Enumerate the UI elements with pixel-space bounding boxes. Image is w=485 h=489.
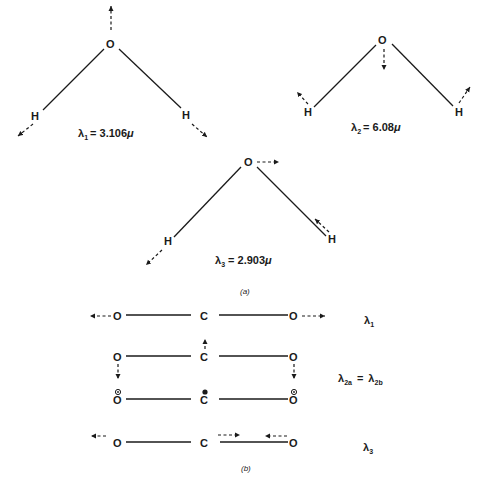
co2-row-mode-3: O C O λ3 bbox=[91, 435, 373, 455]
oxygen-atom-right: O bbox=[289, 310, 298, 322]
carbon-atom: C bbox=[200, 437, 208, 449]
displacement-arrow-up-right-icon bbox=[459, 87, 470, 103]
oxygen-atom-left: O bbox=[113, 351, 122, 363]
oxygen-atom-left: O bbox=[113, 310, 122, 322]
hydrogen-atom-left: H bbox=[31, 110, 39, 122]
oxygen-atom-left: O bbox=[113, 394, 122, 406]
wavelength-label-3: λ3= 2.903μ bbox=[215, 254, 272, 268]
co2-row-mode-1: O C O λ1 bbox=[90, 310, 374, 328]
carbon-atom: C bbox=[200, 310, 208, 322]
displacement-arrow-down-right-icon bbox=[192, 124, 207, 137]
wavelength-label-2: λ2= 6.08μ bbox=[351, 121, 401, 135]
carbon-atom: C bbox=[200, 394, 208, 406]
displacement-arrow-up-left-icon bbox=[315, 219, 329, 232]
water-molecule-mode-3: O H H λ3= 2.903μ bbox=[146, 156, 336, 268]
hydrogen-atom-left: H bbox=[164, 235, 172, 247]
wavelength-label-co2-2: λ2a=λ2b bbox=[338, 372, 383, 386]
displacement-arrow-down-left-icon bbox=[146, 250, 162, 265]
oh-bond-right bbox=[119, 49, 181, 108]
hydrogen-atom-right: H bbox=[455, 106, 463, 118]
oxygen-atom-right: O bbox=[289, 351, 298, 363]
oh-bond-right bbox=[257, 167, 326, 236]
oxygen-atom: O bbox=[106, 38, 115, 50]
oh-bond-left bbox=[314, 45, 376, 107]
vibrational-modes-figure: O H H λ1= 3.106μ O H H λ2= 6.08μ O H H λ bbox=[0, 0, 485, 489]
oh-bond-left bbox=[174, 167, 241, 237]
wavelength-label-1: λ1= 3.106μ bbox=[78, 127, 134, 141]
oh-bond-right bbox=[392, 44, 453, 106]
oxygen-atom-right: O bbox=[289, 437, 298, 449]
oxygen-atom-left: O bbox=[113, 437, 122, 449]
panel-b-caption: (b) bbox=[241, 464, 251, 473]
hydrogen-atom-right: H bbox=[182, 109, 190, 121]
displacement-arrow-down-left-icon bbox=[18, 124, 33, 136]
carbon-atom: C bbox=[200, 351, 208, 363]
water-molecule-mode-1: O H H λ1= 3.106μ bbox=[18, 6, 207, 141]
hydrogen-atom-left: H bbox=[304, 106, 312, 118]
panel-a-caption: (a) bbox=[240, 287, 250, 296]
oxygen-atom-right: O bbox=[289, 394, 298, 406]
wavelength-label-co2-3: λ3 bbox=[363, 441, 373, 455]
water-molecule-mode-2: O H H λ2= 6.08μ bbox=[297, 34, 470, 135]
oh-bond-left bbox=[43, 49, 104, 110]
co2-row-mode-2a: O C O bbox=[113, 339, 298, 379]
co2-row-mode-2b: O C O bbox=[113, 389, 298, 406]
oxygen-atom: O bbox=[244, 156, 253, 168]
oxygen-atom: O bbox=[378, 34, 387, 46]
wavelength-label-co2-1: λ1 bbox=[364, 314, 374, 328]
hydrogen-atom-right: H bbox=[328, 233, 336, 245]
displacement-arrow-up-left-icon bbox=[297, 92, 308, 104]
